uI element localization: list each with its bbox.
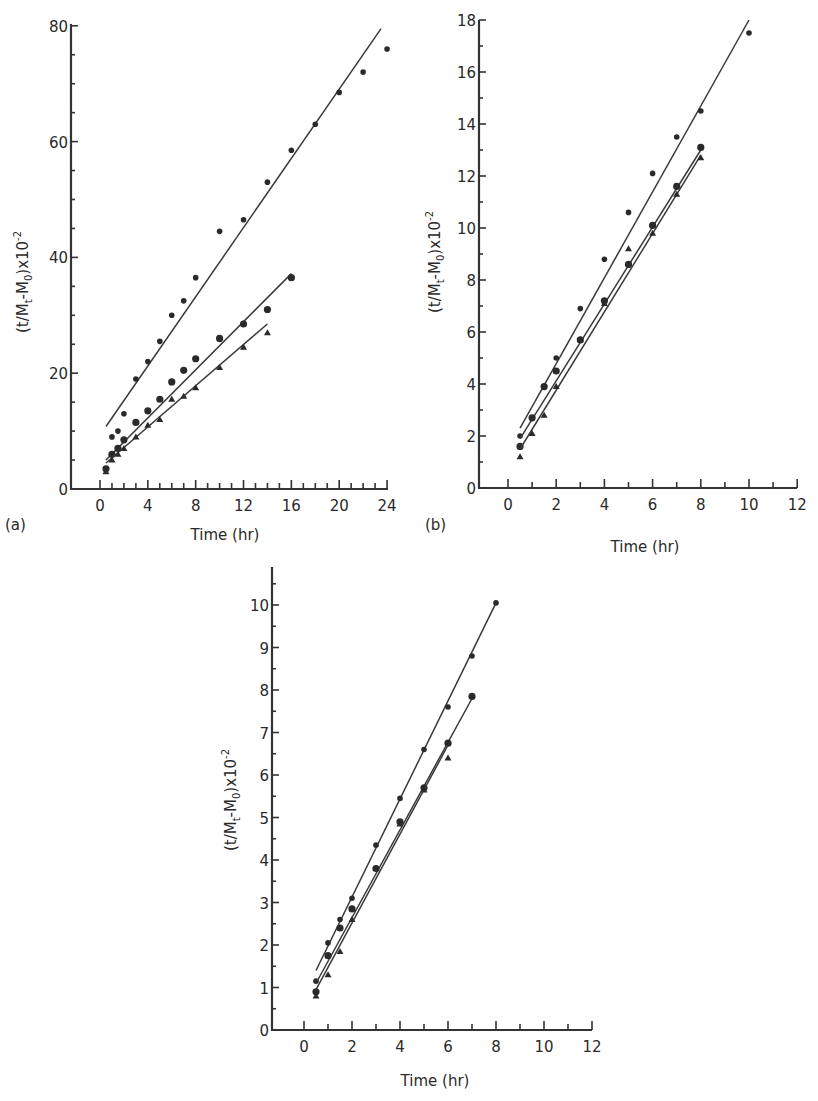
data-point: [698, 108, 704, 114]
data-point: [626, 210, 632, 216]
panel-label: (b): [425, 516, 446, 534]
y-tick-label: 5: [259, 810, 269, 828]
data-point: [115, 428, 121, 434]
x-tick-label: 12: [582, 1038, 601, 1056]
data-point: [697, 144, 704, 151]
x-tick-label: 10: [534, 1038, 553, 1056]
x-tick-label: 12: [234, 497, 253, 515]
y-tick-label: 10: [250, 597, 269, 615]
y-tick-label: 18: [457, 12, 476, 30]
series-series-2: [102, 274, 295, 473]
fit-line: [520, 155, 701, 449]
data-point: [493, 600, 499, 606]
series-series-3: [102, 324, 270, 474]
data-point: [746, 30, 752, 36]
fit-line: [106, 29, 381, 427]
data-point: [445, 704, 451, 710]
x-tick-label: 0: [503, 496, 513, 514]
data-point: [109, 434, 115, 440]
x-tick-label: 10: [739, 496, 758, 514]
data-point: [468, 693, 475, 700]
y-tick-label: 14: [457, 116, 476, 134]
y-tick-label: 0: [466, 480, 476, 498]
y-tick-label: 6: [466, 324, 476, 342]
x-tick-label: 8: [491, 1038, 501, 1056]
data-point: [192, 355, 199, 362]
data-point: [157, 339, 163, 345]
x-tick-label: 4: [143, 497, 153, 515]
fit-line: [316, 745, 448, 989]
data-point: [625, 261, 632, 268]
data-point: [336, 90, 342, 96]
data-point-triangle: [517, 453, 524, 459]
x-axis-title: Time (hr): [400, 1072, 470, 1090]
data-point: [553, 367, 560, 374]
y-tick-label: 0: [259, 1022, 269, 1040]
data-point: [529, 414, 536, 421]
y-tick-label: 4: [259, 852, 269, 870]
y-tick-label: 60: [49, 134, 68, 152]
series-series-3: [517, 154, 705, 459]
data-point: [421, 747, 427, 753]
data-point: [650, 171, 656, 177]
data-point: [121, 411, 127, 417]
y-tick-label: 8: [466, 272, 476, 290]
x-tick-label: 16: [282, 497, 301, 515]
data-point: [264, 306, 271, 313]
data-point: [602, 256, 608, 262]
data-point-triangle: [445, 755, 452, 761]
data-point: [240, 320, 247, 327]
fit-line: [520, 20, 749, 428]
y-tick-label: 40: [49, 249, 68, 267]
x-tick-label: 2: [347, 1038, 357, 1056]
data-point: [541, 383, 548, 390]
y-axis-title: (t/Mt-M0)x10-2: [12, 231, 34, 333]
x-tick-label: 20: [330, 497, 349, 515]
x-tick-label: 4: [600, 496, 610, 514]
data-point: [120, 436, 127, 443]
x-tick-label: 24: [377, 497, 396, 515]
x-axis-title: Time (hr): [610, 538, 680, 556]
data-point: [241, 217, 247, 223]
data-point: [288, 274, 295, 281]
y-tick-label: 20: [49, 365, 68, 383]
y-axis-title: (t/Mt-M0)x10-2: [424, 211, 446, 313]
panel-a: 04812162024020406080Time (hr)(t/Mt-M0)x1…: [5, 18, 397, 544]
y-tick-label: 2: [259, 937, 269, 955]
y-tick-label: 9: [259, 640, 269, 658]
y-tick-label: 4: [466, 376, 476, 394]
x-tick-label: 6: [648, 496, 658, 514]
data-point: [193, 275, 199, 281]
panel-b: 024681012024681012141618Time (hr)(t/Mt-M…: [424, 12, 807, 556]
data-point: [324, 952, 331, 959]
data-point: [349, 895, 355, 901]
data-point: [181, 298, 187, 304]
data-point: [156, 396, 163, 403]
data-point: [133, 376, 139, 382]
fit-line: [106, 274, 291, 460]
y-tick-label: 7: [259, 725, 269, 743]
data-point: [312, 121, 318, 127]
fit-line: [316, 603, 496, 971]
y-axis-title: (t/Mt-M0)x10-2: [220, 749, 242, 851]
data-point: [649, 222, 656, 229]
x-tick-label: 4: [395, 1038, 405, 1056]
x-tick-label: 6: [443, 1038, 453, 1056]
data-point: [469, 653, 475, 659]
figure-canvas: 04812162024020406080Time (hr)(t/Mt-M0)x1…: [0, 0, 818, 1101]
data-point-triangle: [625, 245, 632, 251]
series-series-3: [313, 745, 452, 998]
fit-line: [520, 150, 701, 439]
data-point: [337, 917, 343, 923]
panel-label: (a): [5, 516, 26, 534]
x-tick-label: 0: [299, 1038, 309, 1056]
x-tick-label: 2: [551, 496, 561, 514]
data-point: [289, 147, 295, 153]
panel-c: 024681012012345678910Time (hr)(t/Mt-M0)x…: [220, 567, 602, 1090]
x-tick-label: 8: [696, 496, 706, 514]
y-tick-label: 6: [259, 767, 269, 785]
y-tick-label: 8: [259, 682, 269, 700]
data-point: [180, 367, 187, 374]
x-axis-title: Time (hr): [190, 526, 260, 544]
data-point: [168, 378, 175, 385]
